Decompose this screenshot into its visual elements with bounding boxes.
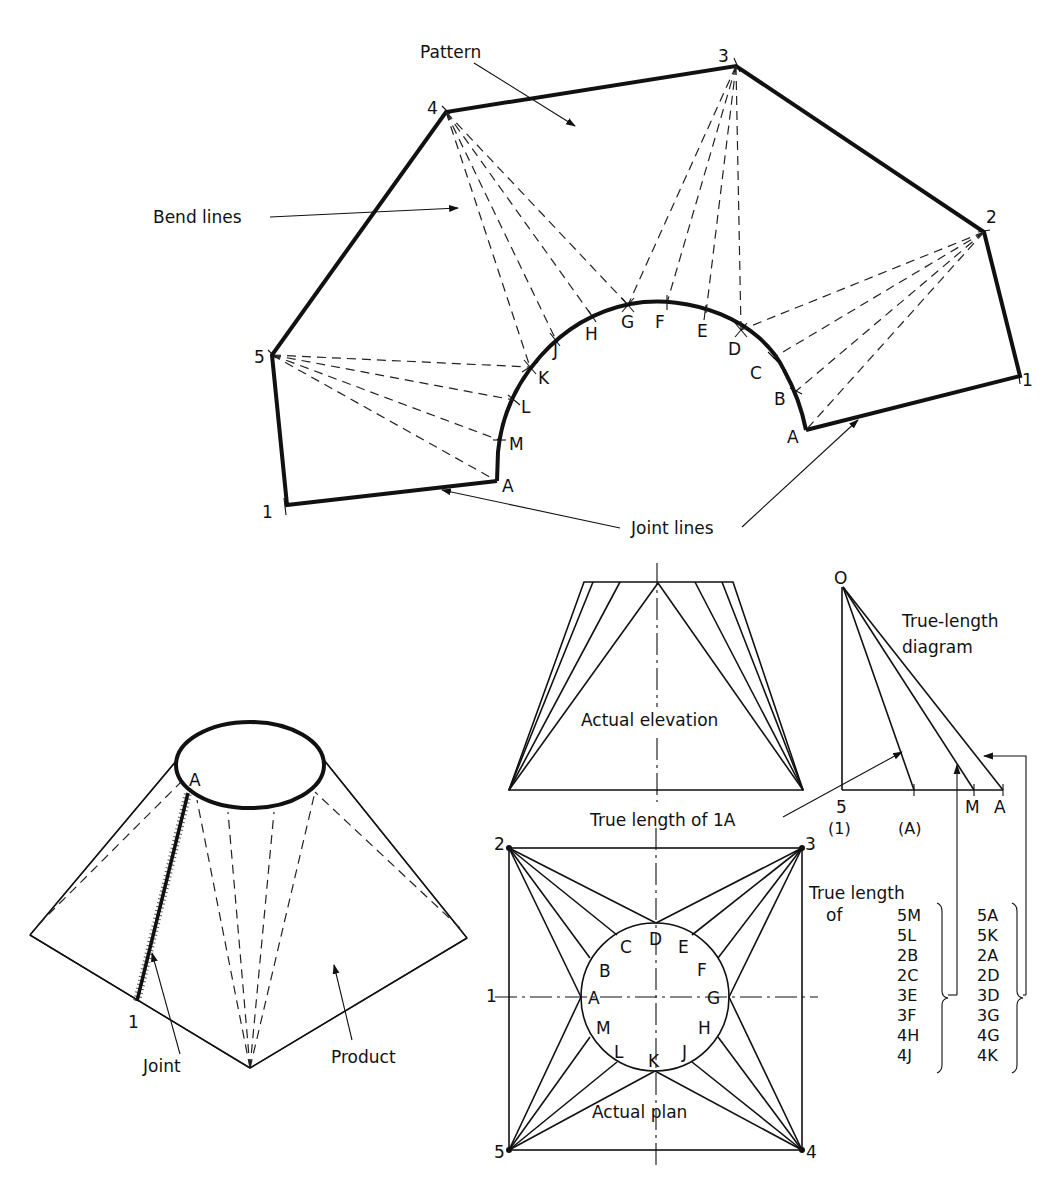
curve-label-a-left: A [502, 476, 514, 496]
pattern-title: Pattern [420, 42, 481, 62]
column1-item: 2B [897, 946, 918, 965]
table-heading-2: of [826, 905, 843, 925]
column1-brace [937, 903, 948, 1073]
column2-item: 5A [977, 906, 998, 925]
plan-point-j: J [681, 1042, 687, 1062]
curve-label-k: K [538, 368, 550, 388]
sheet-metal-development-drawing: 1 2 3 4 5 1 A B C D E F G H J K L M A Pa… [0, 0, 1051, 1197]
plan-point-h: H [698, 1018, 711, 1038]
tl-diagram-title-2: diagram [902, 637, 973, 657]
joint-lines-leader-left [442, 490, 620, 528]
product-joint-label: Joint [142, 1056, 181, 1076]
product-point-a: A [189, 770, 201, 790]
plan-corner-4: 4 [806, 1142, 817, 1162]
bend-lines-leader-arrow [270, 208, 458, 217]
column1-item: 5M [897, 906, 921, 925]
column1-item: 4J [897, 1046, 912, 1065]
plan-point-l: L [614, 1042, 624, 1062]
curve-label-b: B [774, 389, 786, 409]
plan-corner-5: 5 [494, 1142, 505, 1162]
plan-label: Actual plan [592, 1102, 687, 1122]
column1-item: 3F [897, 1006, 916, 1025]
product-top-opening [176, 722, 324, 808]
column1-item: 5L [897, 926, 916, 945]
plan-corner-1: 1 [486, 986, 497, 1006]
column1-item: 4H [897, 1026, 919, 1045]
sub-label-1: (1) [828, 819, 851, 838]
column2-item: 4G [977, 1026, 1000, 1045]
product-leader-arrow [334, 965, 352, 1040]
curve-label-l: L [521, 397, 531, 417]
plan-point-k: K [648, 1051, 660, 1071]
column2-item: 2D [977, 966, 1000, 985]
sub-label-a: (A) [898, 819, 921, 838]
joint-leader-arrow [152, 953, 180, 1054]
curve-label-e: E [697, 321, 708, 341]
base-label-5: 5 [836, 797, 847, 817]
curve-label-d: D [728, 339, 741, 359]
column2-brace [1012, 903, 1023, 1073]
plan-point-c: C [620, 937, 632, 957]
plan-corner-3: 3 [805, 834, 816, 854]
bend-lines-5 [272, 355, 530, 481]
plan-point-d: D [649, 929, 662, 949]
product-point-1: 1 [128, 1012, 139, 1032]
true-length-1a-label: True length of 1A [589, 810, 736, 830]
column2-item: 3D [977, 986, 1000, 1005]
pattern-corner-4: 4 [427, 98, 438, 118]
pattern-inner-arc [497, 302, 806, 481]
pattern-corner-2: 2 [986, 207, 997, 227]
product-view: A 1 Joint Product [30, 722, 467, 1076]
bend-lines-label: Bend lines [153, 207, 242, 227]
elevation-label: Actual elevation [581, 710, 718, 730]
curve-label-c: C [750, 363, 762, 383]
bend-lines-4 [446, 112, 628, 367]
bend-lines-3 [628, 66, 741, 330]
plan-point-g: G [707, 988, 720, 1008]
base-label-m: M [965, 797, 980, 817]
column1-item: 3E [897, 986, 917, 1005]
plan-corner-2: 2 [494, 834, 505, 854]
plan-point-f: F [697, 960, 707, 980]
base-label-a: A [994, 797, 1006, 817]
plan-point-a: A [588, 988, 600, 1008]
pattern-corner-1-left: 1 [262, 502, 273, 522]
table-column-2: 5A 5K 2A 2D 3D 3G 4G 4K [977, 906, 1000, 1065]
plan-point-e: E [678, 937, 689, 957]
joint-lines-leader-right [742, 420, 858, 527]
product-label: Product [331, 1047, 396, 1067]
joint-lines-label: Joint lines [630, 518, 714, 538]
curve-label-j: J [552, 340, 558, 360]
column2-item: 5K [977, 926, 998, 945]
pattern-outline [272, 66, 1020, 505]
plan-point-m: M [596, 1018, 611, 1038]
plan-point-b: B [599, 961, 611, 981]
true-length-table: True length of 5M 5L 2B 2C 3E 3F 4H 4J 5… [808, 883, 1026, 1073]
curve-label-a-right: A [787, 427, 799, 447]
arc-tick-marks [268, 58, 1020, 515]
tl-diagram-title-1: True-length [901, 611, 998, 631]
curve-label-m: M [509, 434, 524, 454]
actual-plan: 1 2 3 4 5 A B C D E F G H J K L M Actual… [486, 828, 818, 1166]
column2-item: 2A [977, 946, 998, 965]
table-column-1: 5M 5L 2B 2C 3E 3F 4H 4J [897, 906, 921, 1065]
pattern-corner-1-right: 1 [1022, 370, 1033, 390]
curve-label-h: H [585, 324, 598, 344]
curve-label-g: G [621, 312, 634, 332]
pattern-corner-3: 3 [718, 46, 729, 66]
pattern-corner-5: 5 [254, 347, 265, 367]
column2-item: 4K [977, 1046, 998, 1065]
elevation-outline [509, 582, 803, 790]
origin-o-label: O [834, 568, 847, 588]
column1-item: 2C [897, 966, 918, 985]
table-heading-1: True length [808, 883, 905, 903]
pattern-development: 1 2 3 4 5 1 A B C D E F G H J K L M A Pa… [153, 42, 1033, 538]
curve-label-f: F [655, 312, 665, 332]
column2-item: 3G [977, 1006, 1000, 1025]
